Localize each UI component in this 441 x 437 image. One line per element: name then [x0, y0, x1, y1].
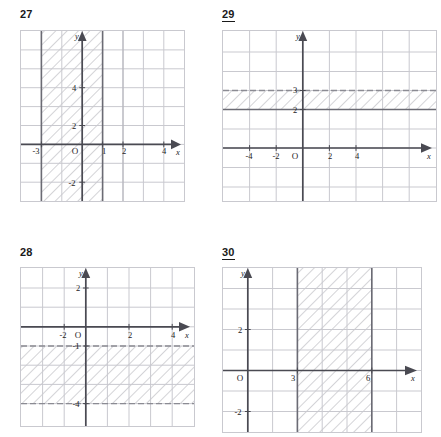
graph-29: -4 -2 2 4 3 2 O x y [222, 30, 437, 202]
x-tick-label-27-0: -3 [32, 146, 39, 156]
x-tick-label-29-0: -4 [245, 151, 253, 161]
problem-number-30: 30 [222, 246, 235, 260]
y-axis-label-28: y [78, 268, 83, 278]
problem-panel-30: 30 [220, 218, 441, 437]
worksheet-page: 27 [0, 0, 441, 437]
x-tick-label-28-2: 4 [171, 330, 176, 340]
y-tick-label-28-1: -1 [72, 341, 79, 351]
graph-30: 3 6 2 -2 O x y [222, 267, 422, 433]
x-tick-label-27-1: 1 [102, 146, 106, 156]
y-tick-label-28-0: 2 [76, 283, 80, 293]
graph-28-svg: -2 2 4 2 -1 -4 O x y [21, 268, 194, 426]
graph-27: -3 1 2 4 4 2 -2 O x y [20, 30, 185, 202]
x-tick-label-27-2: 2 [122, 146, 126, 156]
grid-lines-30 [223, 268, 421, 432]
x-tick-label-30-1: 6 [366, 373, 370, 383]
x-axis-label-30: x [410, 373, 415, 383]
y-axis-label-29: y [295, 31, 300, 41]
problem-number-29: 29 [222, 8, 235, 22]
origin-label-28: O [75, 330, 82, 340]
origin-label-29: O [292, 151, 299, 161]
x-tick-label-27-3: 4 [162, 146, 167, 156]
y-tick-label-30-0: 2 [238, 325, 242, 335]
problem-number-28: 28 [20, 246, 33, 258]
x-axis-label-28: x [184, 330, 189, 340]
graph-29-svg: -4 -2 2 4 3 2 O x y [223, 31, 436, 201]
x-tick-label-29-1: -2 [272, 151, 279, 161]
x-tick-label-29-2: 2 [328, 151, 332, 161]
y-tick-label-29-1: 2 [293, 105, 297, 115]
problem-panel-27: 27 [0, 0, 220, 218]
grid-lines-29 [223, 31, 436, 201]
graph-27-svg: -3 1 2 4 4 2 -2 O x y [21, 31, 184, 201]
shaded-region-27 [41, 31, 102, 201]
x-tick-label-28-1: 2 [128, 330, 132, 340]
x-tick-label-29-3: 4 [355, 151, 360, 161]
origin-label-30: O [237, 373, 244, 383]
y-tick-label-29-0: 3 [293, 85, 297, 95]
x-tick-label-28-0: -2 [59, 330, 66, 340]
y-tick-label-30-1: -2 [234, 407, 241, 417]
y-tick-label-27-1: 2 [72, 121, 76, 131]
x-axis-label-29: x [426, 151, 431, 161]
problem-panel-28: 28 [0, 218, 220, 437]
graph-30-svg: 3 6 2 -2 O x y [223, 268, 421, 432]
y-axis-label-27: y [74, 31, 79, 41]
problem-number-27: 27 [20, 8, 33, 20]
origin-label-27: O [72, 146, 79, 156]
y-tick-label-27-2: -2 [68, 178, 75, 188]
x-tick-label-30-0: 3 [291, 373, 295, 383]
graph-28: -2 2 4 2 -1 -4 O x y [20, 267, 195, 427]
problem-panel-29: 29 [220, 0, 441, 218]
x-axis-label-27: x [175, 147, 180, 157]
y-tick-label-28-2: -4 [72, 399, 80, 409]
y-axis-label-30: y [240, 268, 245, 278]
